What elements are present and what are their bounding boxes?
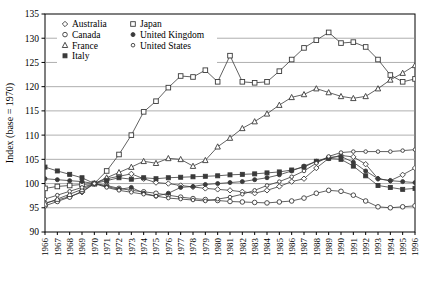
data-point-circle-small-open — [352, 150, 356, 154]
data-point-circle-small-open — [131, 43, 135, 47]
data-point-square-filled — [203, 174, 207, 178]
data-point-square-open — [289, 57, 294, 62]
x-tick-label: 1967 — [53, 238, 63, 257]
y-tick-label: 90 — [30, 227, 40, 237]
data-point-circle-small-open — [204, 199, 208, 203]
x-tick-label: 1983 — [250, 238, 260, 257]
x-tick-label: 1966 — [40, 238, 50, 257]
data-point-square-filled — [142, 176, 146, 180]
y-tick-label: 130 — [25, 34, 40, 44]
data-point-circle-open — [265, 201, 270, 206]
data-point-circle-open — [314, 191, 319, 196]
data-point-circle-small-open — [290, 175, 294, 179]
data-point-circle-filled — [339, 154, 343, 158]
x-tick-label: 1977 — [176, 238, 186, 257]
data-point-circle-open — [302, 196, 307, 201]
data-point-circle-filled — [388, 179, 392, 183]
data-point-circle-open — [388, 205, 393, 210]
data-point-square-filled — [179, 175, 183, 179]
data-point-circle-small-open — [265, 184, 269, 188]
data-point-square-filled — [68, 172, 72, 176]
x-tick-label: 1988 — [312, 238, 322, 257]
data-point-square-open — [203, 68, 208, 73]
data-point-square-open — [388, 73, 393, 78]
x-tick-label: 1969 — [77, 238, 87, 257]
data-point-square-open — [131, 22, 136, 27]
data-point-circle-open — [252, 200, 257, 205]
data-point-circle-small-open — [376, 150, 380, 154]
data-point-circle-filled — [80, 180, 84, 184]
data-point-circle-small-open — [130, 190, 134, 194]
data-point-square-filled — [166, 176, 170, 180]
data-point-circle-filled — [240, 180, 244, 184]
data-point-square-open — [43, 186, 48, 191]
x-tick-label: 1982 — [238, 238, 248, 256]
data-point-circle-filled — [43, 177, 47, 181]
data-point-square-filled — [117, 176, 121, 180]
data-point-square-filled — [413, 186, 417, 190]
data-point-square-filled — [388, 185, 392, 189]
data-point-circle-small-open — [179, 197, 183, 201]
data-point-circle-small-open — [389, 150, 393, 154]
data-point-circle-small-open — [43, 197, 47, 201]
data-point-square-open — [326, 30, 331, 35]
data-point-circle-small-open — [401, 149, 405, 153]
data-point-circle-filled — [55, 178, 59, 182]
data-point-square-open — [67, 183, 72, 188]
x-tick-label: 1995 — [398, 238, 408, 257]
data-point-circle-filled — [413, 181, 417, 185]
data-point-circle-open — [376, 205, 381, 210]
legend-label-canada: Canada — [72, 30, 101, 40]
data-point-circle-small-open — [68, 190, 72, 194]
data-point-square-filled — [376, 183, 380, 187]
data-point-circle-filled — [68, 179, 72, 183]
data-point-square-filled — [80, 176, 84, 180]
x-tick-label: 1968 — [65, 238, 75, 257]
data-point-square-open — [117, 152, 122, 157]
data-point-circle-filled — [277, 173, 281, 177]
x-tick-label: 1973 — [127, 238, 137, 257]
data-point-square-open — [413, 77, 418, 82]
x-tick-label: 1990 — [336, 238, 346, 257]
y-tick-label: 110 — [25, 131, 39, 141]
data-point-square-open — [376, 57, 381, 62]
data-point-circle-small-open — [315, 161, 319, 165]
data-point-square-filled — [228, 173, 232, 177]
x-tick-label: 1980 — [213, 238, 223, 257]
x-tick-label: 1992 — [361, 238, 371, 256]
x-tick-label: 1974 — [139, 238, 149, 257]
chart-container: 9095100105110115120125130135Index (base … — [0, 0, 435, 284]
y-axis-title: Index (base = 1970) — [4, 83, 16, 163]
data-point-square-filled — [105, 179, 109, 183]
x-tick-label: 1970 — [90, 238, 100, 257]
data-point-circle-small-open — [216, 197, 220, 201]
data-point-circle-filled — [401, 180, 405, 184]
data-point-circle-small-open — [413, 148, 417, 152]
legend-label-australia: Australia — [72, 19, 108, 29]
data-point-square-open — [351, 40, 356, 45]
data-point-square-filled — [364, 174, 368, 178]
data-point-square-open — [277, 69, 282, 74]
y-tick-label: 135 — [25, 9, 40, 19]
data-point-circle-filled — [166, 191, 170, 195]
x-tick-label: 1985 — [275, 238, 285, 257]
x-tick-label: 1986 — [287, 238, 297, 257]
data-point-circle-open — [240, 200, 245, 205]
data-point-square-open — [191, 75, 196, 80]
data-point-circle-filled — [216, 182, 220, 186]
data-point-circle-small-open — [327, 155, 331, 159]
x-tick-label: 1987 — [299, 238, 309, 257]
data-point-square-open — [302, 46, 307, 51]
data-point-circle-open — [326, 188, 331, 193]
x-tick-label: 1994 — [386, 238, 396, 257]
data-point-circle-small-open — [80, 186, 84, 190]
y-tick-label: 100 — [25, 179, 40, 189]
data-point-square-filled — [401, 187, 405, 191]
legend-label-italy: Italy — [72, 51, 90, 61]
data-point-circle-small-open — [339, 151, 343, 155]
data-point-square-filled — [43, 165, 47, 169]
line-chart: 9095100105110115120125130135Index (base … — [0, 0, 435, 284]
data-point-circle-open — [400, 205, 405, 210]
y-tick-label: 120 — [25, 82, 40, 92]
data-point-square-filled — [154, 177, 158, 181]
